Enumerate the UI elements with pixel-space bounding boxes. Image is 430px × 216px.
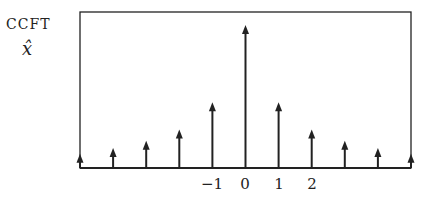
arrowhead-icon	[275, 102, 282, 111]
tick-label-2: 2	[307, 175, 317, 193]
arrowhead-icon	[143, 141, 150, 150]
arrowhead-icon	[374, 148, 381, 157]
tick-label-minus1: −1	[201, 175, 223, 193]
stems	[77, 25, 415, 168]
arrowhead-icon	[242, 25, 249, 34]
tick-label-1: 1	[274, 175, 284, 193]
arrowhead-icon	[176, 129, 183, 138]
arrowhead-icon	[110, 148, 117, 157]
arrowhead-icon	[341, 141, 348, 150]
tick-label-0: 0	[240, 175, 250, 193]
arrowhead-icon	[77, 154, 84, 163]
arrowhead-icon	[209, 102, 216, 111]
arrowhead-icon	[408, 154, 415, 163]
arrowhead-icon	[308, 129, 315, 138]
